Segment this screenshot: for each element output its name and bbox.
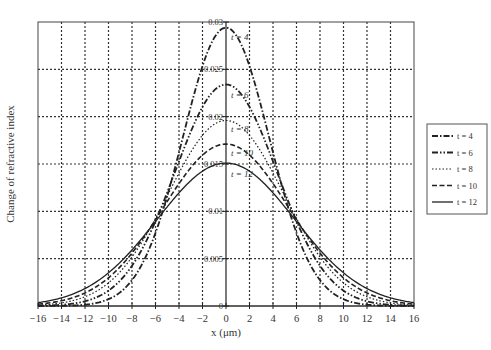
x-axis-title: x (μm)	[211, 326, 241, 339]
y-tick-label: 0.03	[208, 17, 223, 27]
y-tick-label: 0.01	[208, 206, 223, 216]
x-tick-label: 2	[247, 313, 252, 324]
x-tick-label: −6	[150, 313, 161, 324]
curve-label: t = 4	[231, 32, 249, 42]
y-axis-title: Change of refractive index	[4, 105, 16, 223]
legend: t = 4t = 6t = 8t = 10t = 12	[427, 124, 487, 214]
y-tick-label: 0.005	[204, 254, 223, 264]
y-tick-label: 0.025	[204, 64, 223, 74]
x-tick-label: 4	[270, 313, 276, 324]
x-tick-label: 6	[294, 313, 299, 324]
curve-label: t = 10	[231, 148, 254, 158]
x-tick-label: 10	[338, 313, 349, 324]
legend-label: t = 10	[457, 181, 477, 191]
curve-label: t = 12	[231, 169, 254, 179]
y-tick-label: 0	[219, 301, 223, 311]
x-tick-label: −2	[197, 313, 208, 324]
x-tick-label: 12	[362, 313, 373, 324]
y-ticks: 00.0050.010.0150.020.0250.03	[204, 17, 229, 311]
legend-label: t = 8	[457, 164, 473, 174]
x-tick-label: 8	[317, 313, 322, 324]
curve-label: t = 6	[231, 90, 249, 100]
x-tick-label: −12	[77, 313, 93, 324]
curve-labels: t = 4t = 6t = 8t = 10t = 12	[231, 32, 254, 179]
x-tick-label: 16	[409, 313, 420, 324]
legend-label: t = 6	[457, 148, 473, 158]
x-tick-label: 14	[385, 313, 396, 324]
x-tick-label: −8	[126, 313, 137, 324]
y-tick-label: 0.015	[204, 159, 223, 169]
x-tick-label: −10	[100, 313, 116, 324]
x-tick-label: −14	[53, 313, 70, 324]
x-tick-label: 0	[223, 313, 228, 324]
x-tick-label: −4	[173, 313, 185, 324]
curve-label: t = 8	[231, 124, 249, 134]
x-tick-label: −16	[30, 313, 46, 324]
legend-label: t = 12	[457, 197, 477, 207]
chart: −16−14−12−10−8−6−4−20246810121416 00.005…	[0, 0, 491, 350]
y-tick-label: 0.02	[208, 112, 223, 122]
legend-label: t = 4	[457, 131, 473, 141]
